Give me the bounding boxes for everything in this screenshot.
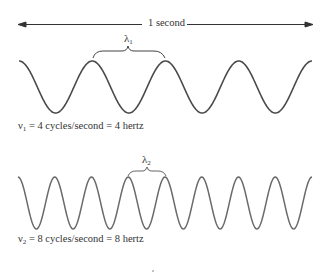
one-second-text: 1 second [148, 17, 185, 28]
one-second-label: 1 second [146, 17, 187, 28]
lambda-subscript: 1 [129, 38, 133, 46]
wave-2-caption: ν2 = 8 cycles/second = 8 hertz [18, 233, 144, 246]
arrowhead-left-icon [18, 22, 26, 27]
wave-4-hertz [19, 61, 312, 113]
stray-mark [152, 270, 154, 272]
lambda-subscript: 2 [147, 159, 151, 167]
frequency-text: = 8 cycles/second = 8 hertz [26, 233, 143, 244]
wavelength-1-brace [93, 46, 165, 58]
wavelength-2-label: λ2 [142, 153, 151, 167]
frequency-text: = 4 cycles/second = 4 hertz [26, 120, 143, 131]
wavelength-1-label: λ1 [124, 32, 133, 46]
wave-8-hertz [18, 177, 312, 229]
wave-1-caption: ν1 = 4 cycles/second = 4 hertz [18, 120, 144, 133]
arrowhead-right-icon [305, 22, 313, 27]
wavelength-2-brace [128, 167, 166, 176]
